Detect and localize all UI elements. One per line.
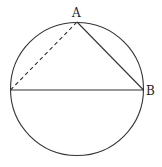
label-a: A bbox=[71, 6, 81, 20]
chord-ab bbox=[77, 22, 144, 90]
circle-diagram: A B bbox=[0, 0, 162, 167]
label-b: B bbox=[146, 84, 155, 98]
circle bbox=[11, 23, 144, 156]
dashed-chord bbox=[11, 22, 78, 90]
